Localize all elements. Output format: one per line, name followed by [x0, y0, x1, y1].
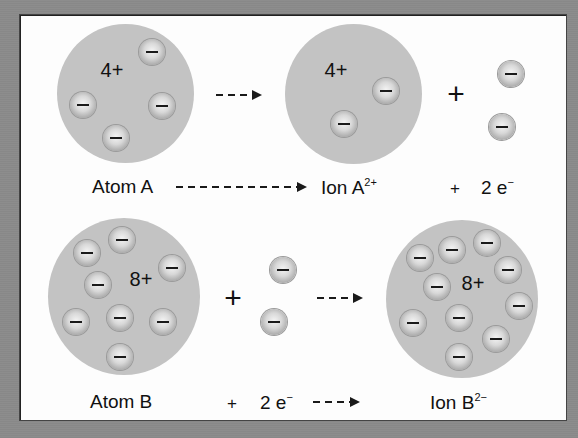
- electron-icon: [439, 237, 465, 263]
- ion-a-charge: 4+: [325, 59, 348, 82]
- electron-icon: [474, 230, 500, 256]
- arrow-right-icon: [313, 397, 360, 407]
- atom-a-charge: 4+: [101, 59, 124, 82]
- electron-icon: [70, 92, 96, 118]
- free-electron-icon: [261, 309, 287, 335]
- ion-a-label: Ion A2+: [321, 176, 377, 199]
- plus-sign: +: [224, 283, 242, 313]
- electron-icon: [150, 309, 176, 335]
- electron-icon: [159, 255, 185, 281]
- free-electron-icon: [489, 114, 515, 140]
- electron-icon: [506, 293, 532, 319]
- electron-icon: [331, 111, 357, 137]
- atom-b-charge: 8+: [130, 268, 153, 291]
- arrow-right-icon: [216, 90, 262, 100]
- atom-a-label: Atom A: [92, 176, 153, 198]
- equation-plus-sign: +: [450, 179, 460, 199]
- electron-charge-superscript: −: [507, 176, 513, 188]
- ion-b-charge: 8+: [462, 272, 485, 295]
- ion-b-label: Ion B2−: [430, 391, 487, 414]
- arrow-right-icon: [317, 293, 363, 303]
- ion-a-superscript: 2+: [364, 176, 377, 188]
- plus-sign: +: [447, 79, 465, 109]
- electron-icon: [63, 309, 89, 335]
- electron-icon: [107, 344, 133, 370]
- electron-icon: [85, 272, 111, 298]
- electron-icon: [373, 78, 399, 104]
- electron-icon: [107, 305, 133, 331]
- free-electron-icon: [498, 61, 524, 87]
- electron-icon: [103, 125, 129, 151]
- released-electrons-label: 2 e−: [481, 176, 514, 199]
- ion-b-name: Ion B: [430, 392, 474, 413]
- arrow-right-icon: [176, 182, 307, 192]
- electron-icon: [74, 240, 100, 266]
- electron-icon: [483, 326, 509, 352]
- electron-icon: [139, 39, 165, 65]
- electron-icon: [400, 310, 426, 336]
- electron-icon: [495, 257, 521, 283]
- electrons-count-text: 2 e: [481, 177, 507, 198]
- electron-icon: [446, 344, 472, 370]
- electron-icon: [407, 245, 433, 271]
- electron-icon: [424, 274, 450, 300]
- equation-plus-sign: +: [227, 394, 237, 414]
- ion-b-superscript: 2−: [474, 391, 487, 403]
- electron-icon: [109, 227, 135, 253]
- atom-b-label: Atom B: [90, 391, 152, 413]
- electrons-count-text: 2 e: [260, 392, 286, 413]
- electron-icon: [149, 93, 175, 119]
- ion-a-name: Ion A: [321, 177, 364, 198]
- electron-charge-superscript: −: [286, 391, 292, 403]
- electron-icon: [446, 305, 472, 331]
- gained-electrons-label: 2 e−: [260, 391, 293, 414]
- free-electron-icon: [270, 257, 296, 283]
- ion-a-nucleus-cloud: [285, 24, 422, 164]
